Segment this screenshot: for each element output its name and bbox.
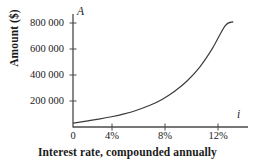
x-tick-label-8pct: 8% (150, 130, 180, 141)
y-tick-label-600000: 600 000 (8, 43, 64, 54)
x-tick-label-12pct: 12% (202, 130, 234, 141)
exponential-curve (74, 22, 233, 123)
chart-figure: Amount ($) Interest rate, compounded ann… (0, 0, 255, 166)
y-tick-label-400000: 400 000 (8, 69, 64, 80)
x-tick-label-0: 0 (62, 130, 84, 141)
x-tick-label-4pct: 4% (97, 130, 127, 141)
y-axis-variable-label: A (77, 5, 84, 17)
x-axis-title: Interest rate, compounded annually (0, 146, 255, 158)
y-tick-label-200000: 200 000 (8, 95, 64, 106)
x-axis-variable-label: i (237, 108, 240, 120)
y-tick-label-800000: 800 000 (8, 17, 64, 28)
